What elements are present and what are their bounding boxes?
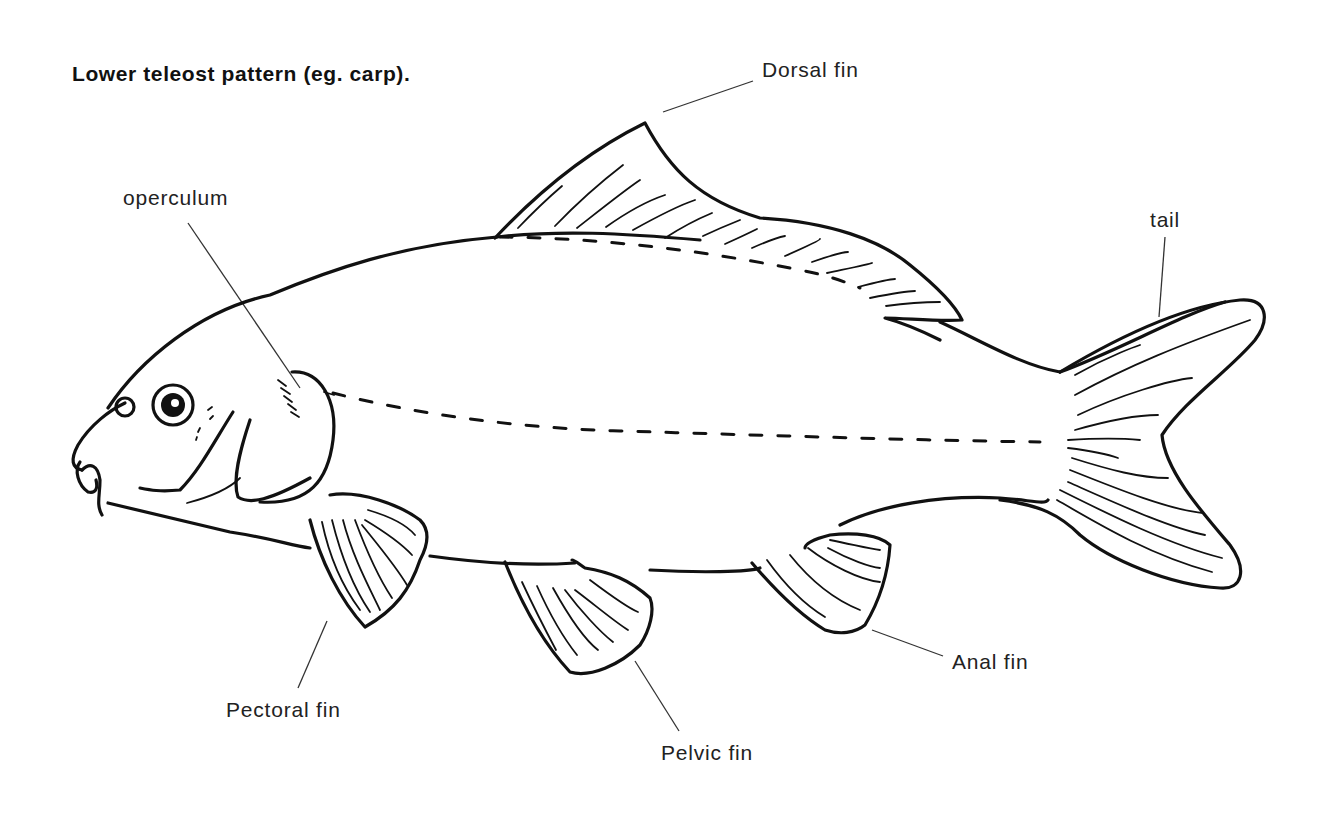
pelvic-fin xyxy=(505,560,652,673)
leader-pectoral-fin xyxy=(298,621,327,688)
carp-illustration xyxy=(0,0,1335,814)
tail-fin xyxy=(1000,300,1264,588)
anal-fin xyxy=(752,534,890,633)
dorsal-fin-base-line xyxy=(500,237,860,288)
leader-dorsal-fin xyxy=(663,81,753,112)
eye-icon xyxy=(153,385,193,425)
pectoral-fin xyxy=(310,494,427,627)
lateral-line xyxy=(333,393,1040,442)
fish-body xyxy=(108,233,1225,572)
leader-pelvic-fin xyxy=(635,661,679,731)
leader-operculum xyxy=(188,223,300,388)
leader-tail xyxy=(1159,237,1165,317)
leader-lines xyxy=(188,81,1165,731)
fish-head xyxy=(73,372,334,515)
leader-anal-fin xyxy=(872,630,943,656)
